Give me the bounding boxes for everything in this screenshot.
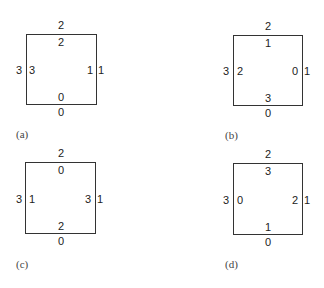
inner-top-label: 1 bbox=[263, 38, 273, 49]
inner-bottom-label: 1 bbox=[263, 222, 273, 233]
inner-left-label: 0 bbox=[235, 195, 245, 206]
outer-right-label: 1 bbox=[96, 65, 106, 76]
outer-left-label: 3 bbox=[14, 65, 24, 76]
inner-right-label: 0 bbox=[290, 66, 300, 77]
outer-left-label: 3 bbox=[221, 195, 231, 206]
inner-top-label: 3 bbox=[263, 166, 273, 177]
panel-c: 2 0 3 1 3 1 2 0 (c) bbox=[0, 144, 162, 288]
inner-top-label: 2 bbox=[56, 37, 66, 48]
inner-top-label: 0 bbox=[56, 165, 66, 176]
outer-right-label: 1 bbox=[95, 194, 105, 205]
outer-left-label: 3 bbox=[221, 66, 231, 77]
inner-bottom-label: 2 bbox=[56, 221, 66, 232]
outer-right-label: 1 bbox=[302, 195, 312, 206]
panel-caption: (d) bbox=[225, 258, 238, 270]
inner-right-label: 3 bbox=[83, 194, 93, 205]
inner-bottom-label: 0 bbox=[56, 92, 66, 103]
panel-d: 2 3 3 0 2 1 1 0 (d) bbox=[162, 144, 324, 288]
inner-left-label: 3 bbox=[27, 65, 37, 76]
outer-left-label: 3 bbox=[14, 194, 24, 205]
outer-bottom-label: 0 bbox=[263, 237, 273, 248]
outer-right-label: 1 bbox=[302, 66, 312, 77]
outer-bottom-label: 0 bbox=[56, 107, 66, 118]
outer-bottom-label: 0 bbox=[263, 108, 273, 119]
outer-bottom-label: 0 bbox=[56, 236, 66, 247]
inner-left-label: 2 bbox=[235, 66, 245, 77]
panel-b: 2 1 3 2 0 1 3 0 (b) bbox=[162, 0, 324, 144]
inner-left-label: 1 bbox=[27, 194, 37, 205]
outer-top-label: 2 bbox=[56, 20, 66, 31]
inner-bottom-label: 3 bbox=[263, 93, 273, 104]
panel-caption: (a) bbox=[16, 128, 28, 140]
outer-top-label: 2 bbox=[263, 21, 273, 32]
inner-right-label: 1 bbox=[85, 65, 95, 76]
panel-caption: (c) bbox=[16, 258, 28, 270]
outer-top-label: 2 bbox=[56, 148, 66, 159]
outer-top-label: 2 bbox=[263, 149, 273, 160]
panel-a: 2 2 3 3 1 1 0 0 (a) bbox=[0, 0, 162, 144]
inner-right-label: 2 bbox=[290, 195, 300, 206]
panel-caption: (b) bbox=[225, 129, 238, 141]
